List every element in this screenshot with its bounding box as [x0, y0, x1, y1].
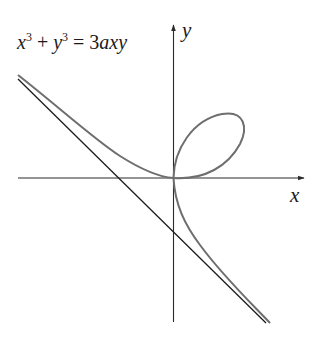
y-axis-label: y: [182, 18, 191, 43]
equation-label: x3 + y3 = 3axy: [17, 30, 127, 54]
curve-lower-right-branch: [174, 178, 271, 323]
curve-upper-left-branch: [18, 75, 174, 178]
x-axis-label: x: [290, 183, 299, 208]
asymptote-line: [18, 79, 266, 323]
curve-loop: [174, 113, 245, 178]
